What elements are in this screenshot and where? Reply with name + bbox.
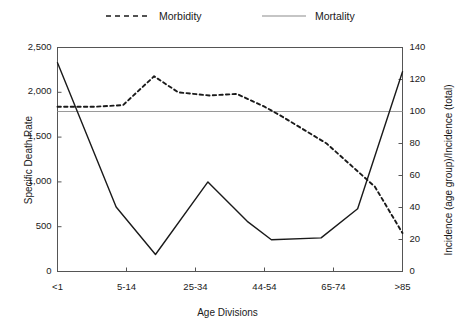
x-axis-tick-label: 44-54 [235, 282, 295, 292]
x-axis-title: Age Divisions [0, 308, 455, 318]
y-axis-right-tick-label: 100 [410, 106, 426, 116]
x-axis-tick-label: 65-74 [304, 282, 364, 292]
y-axis-right-tick-label: 140 [410, 42, 426, 52]
y-axis-left-tick-label: 2,000 [28, 86, 52, 96]
y-axis-right-tick-label: 0 [410, 266, 415, 276]
series-line-mortality [58, 63, 403, 255]
y-axis-right-tick-label: 20 [410, 234, 421, 244]
axis-tick-marks [58, 48, 403, 272]
y-axis-right-tick-label: 40 [410, 202, 421, 212]
y-axis-right-tick-label: 120 [410, 74, 426, 84]
y-axis-left-tick-label: 500 [36, 221, 52, 231]
data-series [58, 63, 403, 255]
y-axis-right-title: Incidence (age group)/Incidence (total) [444, 84, 454, 255]
plot-area [0, 0, 455, 328]
x-axis-tick-label: >85 [373, 282, 433, 292]
y-axis-right-tick-label: 60 [410, 170, 421, 180]
chart-container: Morbidity Mortality 05001,0001,5002,0002… [0, 0, 455, 328]
y-axis-left-tick-label: 0 [46, 266, 51, 276]
x-axis-tick-label: <1 [28, 282, 88, 292]
y-axis-left-title: Specific Death Rate [24, 115, 34, 203]
series-line-morbidity [58, 76, 403, 233]
x-axis-tick-label: 25-34 [166, 282, 226, 292]
x-axis-tick-label: 5-14 [97, 282, 157, 292]
y-axis-right-tick-label: 80 [410, 138, 421, 148]
plot-frame [58, 48, 403, 272]
y-axis-left-tick-label: 2,500 [28, 42, 52, 52]
